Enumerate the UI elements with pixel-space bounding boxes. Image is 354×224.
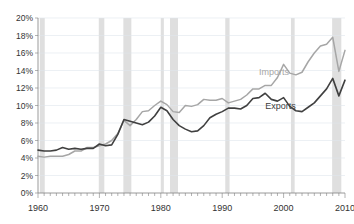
x-tick-label-2000: 2000 xyxy=(274,203,294,213)
imports-label: Imports xyxy=(259,67,290,77)
y-tick-label-2: 2% xyxy=(21,171,34,181)
x-tick-label-1980: 1980 xyxy=(151,203,171,213)
x-tick-label-1990: 1990 xyxy=(212,203,232,213)
y-tick-label-6: 6% xyxy=(21,136,34,146)
y-tick-label-8: 8% xyxy=(21,118,34,128)
x-axis: 196019701980199020002010 xyxy=(28,193,354,213)
exports-label: Exports xyxy=(265,101,296,111)
y-tick-label-10: 10% xyxy=(16,101,33,111)
y-tick-label-16: 16% xyxy=(16,48,33,58)
y-tick-label-20: 20% xyxy=(16,13,33,23)
y-tick-label-14: 14% xyxy=(16,66,33,76)
line-chart: 0%2%4%6%8%10%12%14%16%18%20% 19601970198… xyxy=(0,0,354,224)
chart-container: 0%2%4%6%8%10%12%14%16%18%20% 19601970198… xyxy=(0,0,354,224)
x-tick-label-1970: 1970 xyxy=(89,203,109,213)
y-axis: 0%2%4%6%8%10%12%14%16%18%20% xyxy=(16,13,38,198)
y-tick-label-4: 4% xyxy=(21,153,34,163)
y-tick-label-18: 18% xyxy=(16,31,33,41)
series-lines xyxy=(38,37,345,157)
x-tick-label-2010: 2010 xyxy=(335,203,354,213)
x-tick-label-1960: 1960 xyxy=(28,203,48,213)
series-line-exports xyxy=(38,78,345,151)
gridlines xyxy=(38,18,345,176)
y-tick-label-0: 0% xyxy=(21,188,34,198)
y-tick-label-12: 12% xyxy=(16,83,33,93)
series-line-imports xyxy=(38,37,345,157)
